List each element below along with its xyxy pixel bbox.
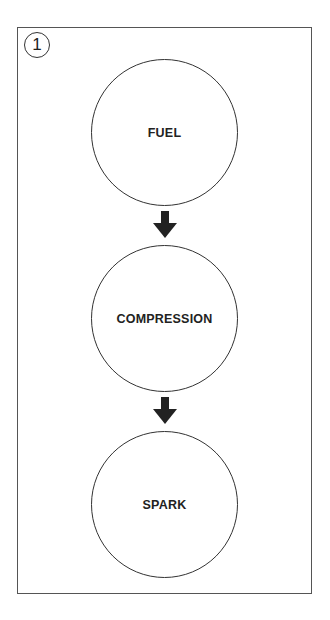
down-arrow-icon (152, 397, 178, 425)
down-arrow-icon (152, 211, 178, 239)
step-compression-circle: COMPRESSION (91, 245, 238, 392)
step-fuel-label: FUEL (148, 126, 181, 140)
step-compression-label: COMPRESSION (117, 312, 213, 326)
step-spark-label: SPARK (143, 498, 187, 512)
step-fuel-circle: FUEL (91, 59, 238, 206)
figure-number-badge: 1 (24, 32, 50, 58)
step-spark-circle: SPARK (91, 431, 238, 578)
